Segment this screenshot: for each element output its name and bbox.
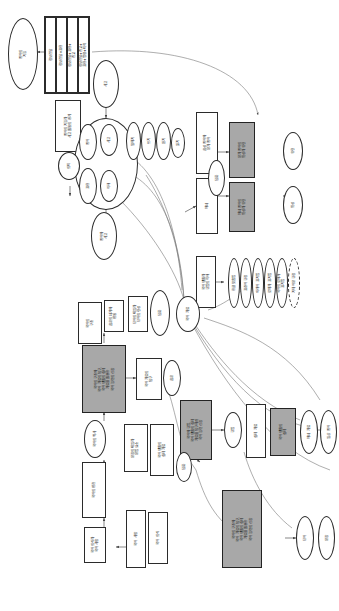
- node-meaning[interactable]: 의미: [58, 152, 80, 180]
- node-integrated-competency[interactable]: 국어의 구조와 국어 자료의 탐구, 국어 생활의 실제 자료를 활용한 국어 …: [222, 490, 262, 568]
- node-label: 음운: [170, 375, 174, 381]
- node-label: 국어 자료의 탐구: [145, 371, 153, 387]
- node-structure-of-korean[interactable]: 국어의 구조: [78, 302, 102, 344]
- node-function-item-1[interactable]: 정보전달: [45, 17, 56, 93]
- node-label: 사고: [107, 137, 111, 143]
- node-function-item-2[interactable]: 정보전달+표현: [56, 17, 67, 93]
- node-label: 언어: [86, 139, 90, 145]
- node-comprehension[interactable]: 이해: [100, 170, 118, 202]
- node-label: 특성: [291, 202, 295, 208]
- node-label: 매체 자료: [307, 425, 311, 438]
- node-label: 국어 생활의 실제: [279, 424, 287, 440]
- node-label: 국어와 규범, 국어 생활의 실제 자료를 탐구하여 국어 능력 신장: [188, 418, 205, 441]
- node-writing[interactable]: 쓰기: [141, 122, 156, 160]
- node-label: 음성 언어와 문자 언어: [203, 135, 211, 151]
- node-media-language-traits[interactable]: 매체 언어의 특성과 유형: [229, 182, 255, 232]
- node-function-item-3[interactable]: 정보전달+표현+ 친교: [67, 17, 78, 93]
- node-discourse-hub[interactable]: 담화: [150, 290, 170, 336]
- node-label: 국어 자료: [186, 307, 190, 320]
- node-phoneme[interactable]: 음운: [163, 360, 181, 396]
- node-speaking[interactable]: 말하기: [126, 122, 141, 160]
- node-discourse-low[interactable]: 담화: [176, 452, 192, 482]
- node-word-formation[interactable]: 단어의 짜임과 단어의 형성: [128, 296, 148, 332]
- node-thought-inner[interactable]: 사고: [100, 124, 118, 156]
- node-rule-romanization[interactable]: 로마자 표기법: [264, 258, 276, 308]
- node-label: 듣기: [161, 138, 165, 144]
- node-norm[interactable]: 규범: [224, 412, 242, 448]
- node-label: 국어의 구조와 국어 자료의 탐구, 국어 생활의 실제 자료를 활용한 국어 …: [232, 517, 253, 541]
- node-label: 정보전달+표현: [59, 44, 63, 65]
- node-korean-history-ell[interactable]: 국어의 역사: [84, 420, 106, 458]
- node-korean-material-hub[interactable]: 국어 자료: [176, 296, 200, 332]
- node-type[interactable]: 유형: [283, 132, 303, 170]
- node-sentence[interactable]: 문장: [318, 516, 335, 560]
- node-label: 단어: [303, 535, 307, 541]
- node-label: 언어의 기능: [19, 50, 27, 59]
- diagram-canvas: 언어의 기능 정보전달 정보전달+표현 정보전달+표현+ 친교 정보전달+친교+…: [0, 0, 339, 611]
- node-daily-language[interactable]: 일상 언어: [320, 410, 337, 454]
- node-listening[interactable]: 듣기: [156, 122, 171, 160]
- node-label: 국어 생활과 규범의 이해: [202, 274, 210, 290]
- node-sentence-structure[interactable]: 문장의 짜임과 문법 요소: [124, 424, 148, 472]
- node-rule-hangeul-orthography[interactable]: 한글 맞춤법: [228, 258, 240, 308]
- node-label: 국어 사랑: [134, 532, 138, 545]
- node-label: 음운의 체계와 변동: [110, 306, 118, 325]
- node-korean-love[interactable]: 국어 사랑: [126, 510, 146, 568]
- node-label: 의미: [67, 163, 71, 169]
- node-label: 쓰기: [146, 138, 150, 144]
- node-korean-awareness[interactable]: 국어 의식: [148, 512, 168, 564]
- node-label: 국어 생활의 실제 자료: [158, 442, 166, 458]
- node-korean-change[interactable]: 국어의 변천: [82, 462, 106, 518]
- node-korean-material-explore[interactable]: 국어 자료의 탐구: [136, 358, 162, 400]
- node-label: 정보전달+친교+ 표현+명령+미적: [79, 43, 87, 67]
- node-korean-real-material[interactable]: 국어 생활의 실제 자료: [150, 424, 174, 476]
- node-label: 국어 의식과 국어 사랑: [91, 537, 99, 553]
- node-thought[interactable]: 사고: [93, 60, 119, 108]
- node-korean-consciousness[interactable]: 국어 의식과 국어 사랑: [84, 527, 106, 563]
- node-label: 표준어 규정: [244, 275, 248, 291]
- node-expression[interactable]: 표현: [79, 168, 97, 204]
- node-language-thought[interactable]: 언어와 사고: [91, 212, 117, 260]
- node-label: 정보전달: [48, 49, 52, 61]
- node-label: 외래어 표기법: [256, 273, 260, 292]
- node-rule-romanization-of-korean[interactable]: 국어의 로마자 표기법: [276, 258, 288, 308]
- node-korean-life-real[interactable]: 국어 생활의 실제: [270, 408, 296, 456]
- node-rule-other-regulations[interactable]: 기타 어문 규정: [288, 258, 300, 308]
- node-label: 실제 자료: [254, 424, 258, 437]
- node-label: 담화: [214, 175, 218, 181]
- node-label: 매체: [205, 203, 209, 209]
- node-korean-life-and-norms[interactable]: 국어 생활과 규범의 이해: [196, 256, 216, 308]
- node-label: 담화: [182, 464, 186, 470]
- node-label: 표현: [86, 183, 90, 189]
- node-label: 언어와 사고: [100, 232, 108, 241]
- node-reading[interactable]: 읽기: [171, 128, 185, 158]
- node-core-competency-left[interactable]: 국어의 구조와 국어 자료의 탐구, 국어 생활의 실제 자료를 활용한 국어 …: [82, 345, 126, 413]
- node-media-material[interactable]: 매체 자료: [300, 410, 318, 454]
- node-label: 국어의 구조: [86, 319, 94, 328]
- node-discourse-mid[interactable]: 담화: [208, 160, 225, 196]
- node-core-competency-right[interactable]: 국어와 규범, 국어 생활의 실제 자료를 탐구하여 국어 능력 신장: [180, 400, 212, 460]
- node-trait[interactable]: 특성: [283, 186, 303, 224]
- node-label: 언어의 기능과 사고 활동의 관계: [64, 114, 72, 137]
- node-rule-standard-language[interactable]: 표준어 규정: [240, 258, 252, 308]
- node-function-item-4[interactable]: 정보전달+친교+ 표현+명령+미적: [78, 17, 89, 93]
- node-label: 문장: [324, 535, 328, 541]
- node-word[interactable]: 단어: [296, 516, 314, 560]
- node-label: 국어의 변천: [92, 482, 96, 498]
- node-label: 유형: [291, 148, 295, 154]
- node-written-language-traits[interactable]: 문자 언어의 특성과 유형: [229, 122, 255, 178]
- node-real-material[interactable]: 실제 자료: [246, 404, 266, 458]
- node-label: 로마자 표기법: [268, 273, 272, 292]
- node-label: 국어의 로마자 표기법: [278, 273, 286, 292]
- node-rule-loanword-notation[interactable]: 외래어 표기법: [252, 258, 264, 308]
- node-label: 읽기: [176, 140, 180, 146]
- node-label: 정보전달+표현+ 친교: [68, 43, 76, 67]
- node-label: 단어의 짜임과 단어의 형성: [134, 304, 142, 323]
- node-language[interactable]: 언어: [79, 124, 97, 160]
- node-language-function[interactable]: 언어의 기능: [8, 18, 38, 90]
- node-phoneme-system[interactable]: 음운의 체계와 변동: [104, 300, 124, 332]
- node-label: 말하기: [131, 137, 135, 146]
- node-label: 기타 어문 규정: [292, 273, 296, 293]
- node-label: 사고: [104, 81, 108, 87]
- node-label: 국어 의식: [156, 531, 160, 544]
